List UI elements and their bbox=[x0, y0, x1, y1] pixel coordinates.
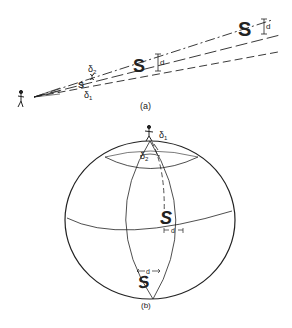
d-label-bottom: d bbox=[146, 268, 150, 275]
d-label-far: d bbox=[266, 22, 270, 31]
d-label-mid: d bbox=[160, 58, 164, 67]
caption-a: (a) bbox=[140, 101, 151, 111]
delta2-label-a: δ2 bbox=[88, 64, 97, 75]
delta1-label-b: δ1 bbox=[159, 130, 168, 141]
caption-b: (b) bbox=[141, 301, 151, 310]
observer-figure-a bbox=[18, 90, 24, 107]
equator-line bbox=[67, 211, 232, 230]
sight-line-sphere bbox=[152, 142, 164, 218]
panel-a: S δ2 δ1 S d S d (a) bbox=[18, 18, 280, 111]
delta2-label-b: δ2 bbox=[140, 151, 149, 162]
panel-b: δ1 δ2 S d S d (b) bbox=[65, 125, 235, 310]
letter-s-mid: S bbox=[133, 56, 145, 76]
middle-ray bbox=[34, 35, 280, 97]
diagram-canvas: S δ2 δ1 S d S d (a) bbox=[0, 0, 292, 328]
sphere-outline bbox=[65, 141, 235, 299]
latitude-circle-front bbox=[105, 157, 198, 169]
letter-s-equator: S bbox=[160, 208, 172, 228]
letter-s-far: S bbox=[238, 18, 251, 40]
delta1-label-a: δ1 bbox=[84, 90, 93, 101]
top-ray bbox=[34, 20, 272, 97]
letter-s-near: S bbox=[78, 80, 84, 90]
bottom-ray bbox=[34, 52, 278, 97]
observer-figure-b bbox=[145, 125, 153, 141]
d-label-equator: d bbox=[171, 227, 175, 234]
